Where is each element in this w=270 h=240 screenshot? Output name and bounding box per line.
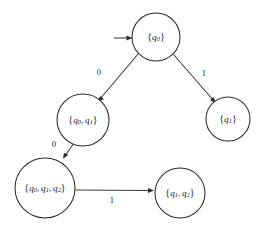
edge-label-1-a: 1	[202, 68, 206, 78]
state-label-q1-q2: {q1, q2}	[165, 187, 194, 198]
edge-n1-n3	[63, 145, 73, 159]
diagram-canvas: 0 1 0 1 {q0} {q0, q1} {q1}	[0, 0, 270, 240]
edge-n0-n2	[174, 55, 216, 104]
edge-n0-n1	[98, 54, 139, 102]
state-label-q0: {q0}	[147, 31, 164, 42]
state-label-q1: {q1}	[219, 113, 236, 124]
edge-label-0-b: 0	[52, 139, 56, 149]
edge-label-1-b: 1	[110, 195, 114, 205]
state-diagram: 0 1 0 1 {q0} {q0, q1} {q1}	[0, 0, 270, 240]
state-label-q0-q1: {q0, q1}	[68, 114, 97, 125]
edge-n3-n4	[76, 188, 155, 193]
start-arrow	[114, 35, 133, 40]
edge-label-0-a: 0	[97, 67, 101, 77]
